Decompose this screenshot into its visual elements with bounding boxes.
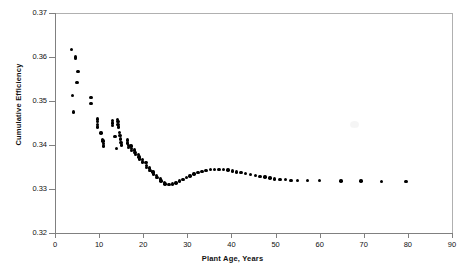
x-tick-label: 0: [40, 240, 70, 249]
data-point: [75, 81, 78, 84]
x-tick-label: 20: [128, 240, 158, 249]
y-tick-mark: [49, 145, 55, 146]
x-tick-mark: [99, 233, 100, 238]
data-point: [226, 168, 229, 171]
x-tick-mark: [187, 233, 188, 238]
axis-right-spine: [452, 13, 453, 234]
x-tick-mark: [143, 233, 144, 238]
plot-area: [55, 13, 452, 233]
data-point: [258, 175, 261, 178]
x-axis-label: Plant Age, Years: [0, 254, 465, 263]
y-tick-label: 0.34: [3, 141, 47, 149]
x-tick-mark: [231, 233, 232, 238]
y-tick-label: 0.35: [3, 97, 47, 105]
data-point: [163, 182, 166, 185]
data-point: [102, 144, 105, 147]
x-tick-mark: [408, 233, 409, 238]
data-point: [181, 178, 184, 181]
y-tick-mark: [49, 101, 55, 102]
data-point: [167, 183, 170, 186]
data-point: [188, 174, 191, 177]
x-tick-mark: [320, 233, 321, 238]
data-point: [113, 135, 116, 138]
y-tick-label: 0.36: [3, 53, 47, 61]
data-point: [72, 110, 75, 113]
data-point: [263, 175, 266, 178]
x-tick-mark: [452, 233, 453, 238]
x-tick-label: 90: [437, 240, 465, 249]
data-point: [289, 179, 292, 182]
data-point: [359, 179, 362, 182]
scan-artifact: [350, 121, 359, 128]
x-tick-label: 80: [393, 240, 423, 249]
axis-top-spine: [55, 13, 453, 14]
data-point: [268, 176, 271, 179]
data-point: [231, 169, 234, 172]
y-tick-mark: [49, 189, 55, 190]
data-point: [89, 96, 92, 99]
data-point: [99, 131, 102, 134]
data-point: [404, 180, 407, 183]
data-point: [339, 179, 342, 182]
data-point: [74, 57, 77, 60]
data-point: [278, 178, 281, 181]
scatter-chart-figure: 0.320.330.340.350.360.37 010203040506070…: [0, 0, 465, 271]
data-point: [76, 70, 79, 73]
data-point: [254, 174, 257, 177]
y-tick-label: 0.33: [3, 185, 47, 193]
data-point: [117, 125, 120, 128]
x-tick-label: 40: [216, 240, 246, 249]
x-tick-label: 10: [84, 240, 114, 249]
x-tick-label: 30: [172, 240, 202, 249]
x-tick-mark: [276, 233, 277, 238]
y-axis-label: Cumulative Efficiency: [14, 35, 23, 175]
y-tick-label: 0.32: [3, 229, 47, 237]
data-point: [204, 169, 207, 172]
data-point: [192, 172, 195, 175]
data-point: [217, 168, 220, 171]
data-point: [273, 177, 276, 180]
x-tick-label: 50: [261, 240, 291, 249]
x-axis-line: [55, 233, 453, 234]
x-tick-mark: [364, 233, 365, 238]
y-tick-mark: [49, 13, 55, 14]
y-axis-line: [55, 13, 56, 234]
data-point: [200, 170, 203, 173]
y-tick-mark: [49, 57, 55, 58]
x-tick-label: 60: [305, 240, 335, 249]
data-point: [120, 143, 123, 146]
y-tick-label: 0.37: [3, 9, 47, 17]
x-tick-label: 70: [349, 240, 379, 249]
x-tick-mark: [55, 233, 56, 238]
